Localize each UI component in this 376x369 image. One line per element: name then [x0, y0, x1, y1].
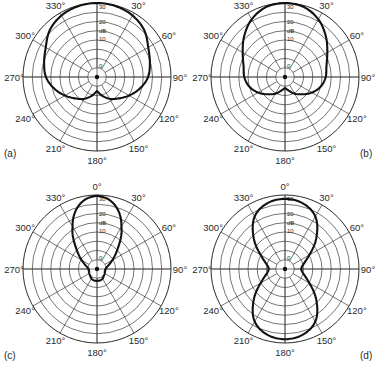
radial-tick-label: dB: [99, 28, 106, 34]
radial-tick-label: 10: [287, 228, 294, 234]
angle-tick-label: 60°: [162, 222, 177, 233]
angle-tick-label: 330°: [234, 192, 254, 203]
angle-tick-label: 210°: [46, 143, 66, 154]
angle-tick-label: 240°: [203, 113, 223, 124]
angle-tick-label: 330°: [46, 192, 66, 203]
angle-tick-label: 300°: [15, 222, 35, 233]
radial-tick-label: 10: [99, 36, 106, 42]
angle-tick-label: 180°: [275, 347, 295, 358]
radial-tick-label: dB: [99, 220, 106, 226]
angle-tick-label: 60°: [350, 30, 365, 41]
center-dot: [95, 75, 99, 79]
angle-tick-label: 330°: [46, 0, 66, 11]
angle-tick-label: 0°: [92, 181, 101, 192]
angle-tick-label: 30°: [319, 0, 334, 11]
center-dot: [283, 75, 287, 79]
angle-tick-label: 300°: [203, 222, 223, 233]
angle-tick-label: 270°: [4, 72, 24, 83]
angle-tick-label: 270°: [192, 72, 212, 83]
angle-tick-label: 270°: [192, 264, 212, 275]
angle-tick-label: 90°: [361, 72, 376, 83]
polar-plot-d: 010dB20300°30°60°90°120°150°180°210°240°…: [192, 181, 375, 362]
panel-label: (a): [4, 148, 16, 159]
center-dot: [283, 267, 287, 271]
polar-plot-b: 010dB203030°60°90°120°150°180°210°240°27…: [192, 0, 375, 166]
angle-tick-label: 0°: [280, 181, 289, 192]
angle-tick-label: 150°: [129, 143, 149, 154]
polar-plot-c: 010dB20300°30°60°90°120°150°180°210°240°…: [4, 181, 187, 362]
angle-tick-label: 210°: [234, 335, 254, 346]
radial-tick-label: 10: [287, 36, 294, 42]
angle-tick-label: 30°: [319, 192, 334, 203]
angle-tick-label: 90°: [361, 264, 376, 275]
angle-tick-label: 150°: [129, 335, 149, 346]
angle-tick-label: 90°: [173, 264, 188, 275]
radial-tick-label: 20: [99, 19, 106, 25]
angle-tick-label: 240°: [203, 305, 223, 316]
angle-tick-label: 120°: [159, 305, 179, 316]
panel-label: (d): [360, 350, 372, 361]
radial-tick-label: dB: [287, 28, 294, 34]
angle-tick-label: 180°: [87, 155, 107, 166]
angle-tick-label: 270°: [4, 264, 24, 275]
angle-tick-label: 150°: [317, 143, 337, 154]
radial-tick-label: 20: [99, 211, 106, 217]
center-dot: [95, 267, 99, 271]
radial-tick-label: 10: [99, 228, 106, 234]
angle-tick-label: 180°: [275, 155, 295, 166]
radial-tick-label: 20: [287, 211, 294, 217]
angle-tick-label: 210°: [234, 143, 254, 154]
angle-tick-label: 120°: [159, 113, 179, 124]
radial-tick-label: 20: [287, 19, 294, 25]
angle-tick-label: 60°: [162, 30, 177, 41]
angle-tick-label: 30°: [131, 192, 146, 203]
panel-label: (b): [360, 148, 372, 159]
angle-tick-label: 30°: [131, 0, 146, 11]
panel-label: (c): [4, 350, 16, 361]
angle-tick-label: 90°: [173, 72, 188, 83]
angle-tick-label: 330°: [234, 0, 254, 11]
angle-tick-label: 240°: [15, 113, 35, 124]
polar-plot-a: 010dB203030°60°90°120°150°180°210°240°27…: [4, 0, 187, 166]
angle-tick-label: 300°: [15, 30, 35, 41]
angle-tick-label: 60°: [350, 222, 365, 233]
polar-pattern-figure: 010dB203030°60°90°120°150°180°210°240°27…: [0, 0, 376, 369]
angle-tick-label: 210°: [46, 335, 66, 346]
angle-tick-label: 180°: [87, 347, 107, 358]
angle-tick-label: 120°: [347, 305, 367, 316]
angle-tick-label: 120°: [347, 113, 367, 124]
radial-tick-label: dB: [287, 220, 294, 226]
angle-tick-label: 240°: [15, 305, 35, 316]
angle-tick-label: 300°: [203, 30, 223, 41]
angle-tick-label: 150°: [317, 335, 337, 346]
